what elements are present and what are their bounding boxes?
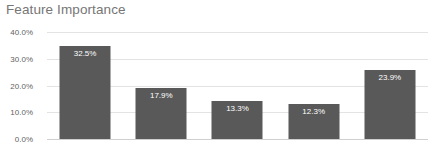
- bar-value-plate-cost-range: 23.9%: [364, 73, 415, 82]
- y-tick-label-0: 0.0%: [0, 135, 33, 144]
- y-tick-label-10: 10.0%: [0, 108, 33, 117]
- bar-value-restaurant-type: 17.9%: [136, 91, 187, 100]
- bar-series: 32.5% 17.9% 13.3% 12.3% 23.9: [47, 24, 428, 139]
- axis-baseline: [47, 139, 428, 140]
- bar-drink[interactable]: 13.3%: [212, 101, 263, 139]
- bar-restaurant-type[interactable]: 17.9%: [136, 88, 187, 140]
- y-tick-label-40: 40.0%: [0, 28, 33, 37]
- bar-slot-food-speed: 12.3%: [276, 24, 352, 139]
- bar-value-food-genre: 32.5%: [60, 49, 111, 58]
- plot-area: 40.0% 30.0% 20.0% 10.0% 0.0% 32.5% 17.9%…: [47, 24, 428, 139]
- bar-food-speed[interactable]: 12.3%: [288, 104, 339, 139]
- bar-slot-restaurant-type: 17.9%: [123, 24, 199, 139]
- y-tick-label-20: 20.0%: [0, 81, 33, 90]
- y-tick-label-30: 30.0%: [0, 54, 33, 63]
- bar-slot-plate-cost-range: 23.9%: [352, 24, 428, 139]
- bar-slot-drink: 13.3%: [199, 24, 275, 139]
- bar-plate-cost-range[interactable]: 23.9%: [364, 70, 415, 139]
- bar-value-food-speed: 12.3%: [288, 107, 339, 116]
- chart-title: Feature Importance: [6, 2, 126, 17]
- bar-food-genre[interactable]: 32.5%: [60, 46, 111, 139]
- feature-importance-chart: Feature Importance 40.0% 30.0% 20.0% 10.…: [0, 0, 438, 166]
- bar-slot-food-genre: 32.5%: [47, 24, 123, 139]
- bar-value-drink: 13.3%: [212, 104, 263, 113]
